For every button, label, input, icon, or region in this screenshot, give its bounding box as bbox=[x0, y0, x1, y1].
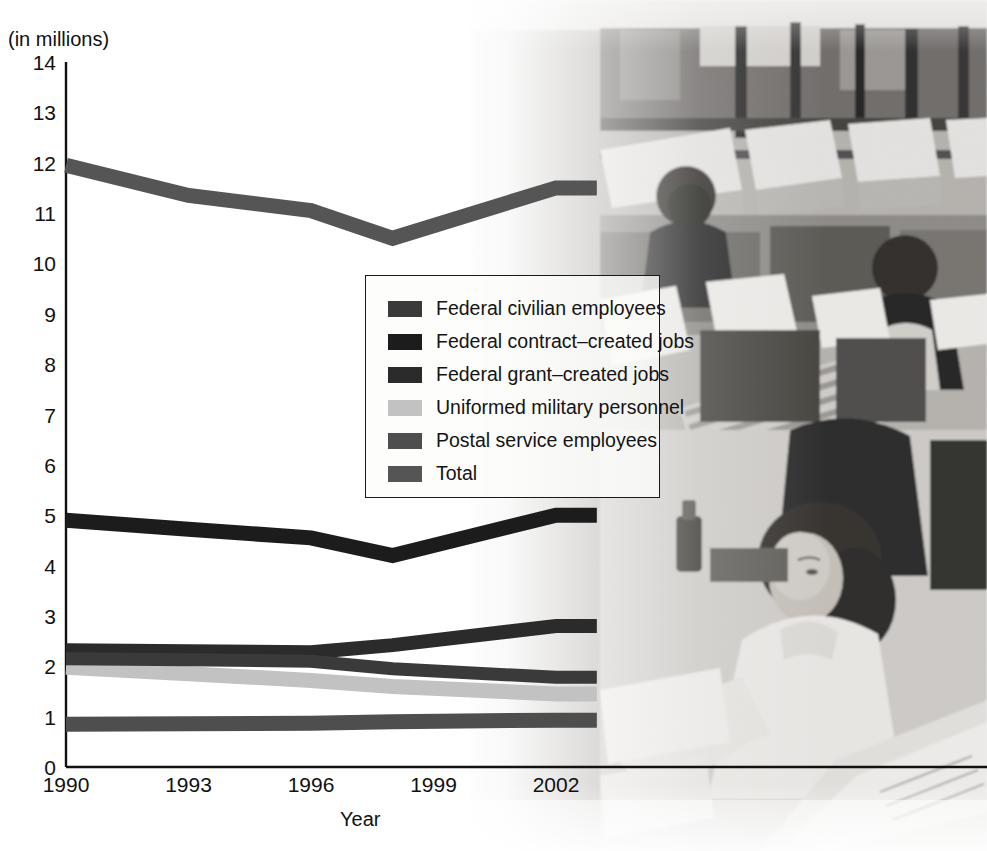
y-axis-tick-label: 5 bbox=[44, 504, 56, 527]
y-axis-tick-label: 12 bbox=[33, 152, 56, 175]
legend-swatch-postal-service-employees bbox=[388, 433, 422, 449]
y-axis-unit-label: (in millions) bbox=[8, 28, 109, 50]
legend-label-federal-grant-created-jobs: Federal grant–created jobs bbox=[436, 365, 669, 385]
legend-swatch-federal-civilian-employees bbox=[388, 301, 422, 317]
legend-swatch-uniformed-military-personnel bbox=[388, 400, 422, 416]
legend-label-federal-contract-created-jobs: Federal contract–created jobs bbox=[436, 332, 694, 352]
legend-item-federal-grant-created-jobs[interactable]: Federal grant–created jobs bbox=[388, 360, 659, 390]
y-axis-tick-label: 13 bbox=[33, 101, 56, 124]
series-line-federal-grant-created-jobs bbox=[66, 626, 597, 652]
legend-swatch-total bbox=[388, 466, 422, 482]
y-axis-tick-label: 14 bbox=[33, 51, 57, 74]
x-axis-title: Year bbox=[340, 808, 381, 830]
legend-item-federal-civilian-employees[interactable]: Federal civilian employees bbox=[388, 294, 659, 324]
legend-item-federal-contract-created-jobs[interactable]: Federal contract–created jobs bbox=[388, 327, 659, 357]
series-line-federal-contract-created-jobs bbox=[66, 515, 597, 555]
legend-label-postal-service-employees: Postal service employees bbox=[436, 431, 657, 451]
y-axis-tick-label: 11 bbox=[34, 202, 56, 225]
legend-item-postal-service-employees[interactable]: Postal service employees bbox=[388, 426, 659, 456]
y-axis-tick-label: 7 bbox=[44, 404, 56, 427]
legend-swatch-federal-contract-created-jobs bbox=[388, 334, 422, 350]
y-axis-ticks: 14131211109876543210 bbox=[33, 51, 57, 779]
legend-label-total: Total bbox=[436, 464, 477, 484]
y-axis-tick-label: 6 bbox=[44, 454, 56, 477]
chart-legend: Federal civilian employees Federal contr… bbox=[365, 275, 660, 498]
x-axis-tick-label: 1999 bbox=[410, 773, 457, 796]
x-axis-ticks: 19901993199619992002 bbox=[43, 773, 580, 796]
x-axis-tick-label: 1996 bbox=[288, 773, 335, 796]
y-axis-tick-label: 1 bbox=[44, 706, 56, 729]
legend-item-total[interactable]: Total bbox=[388, 459, 659, 489]
legend-label-federal-civilian-employees: Federal civilian employees bbox=[436, 299, 666, 319]
series-line-total bbox=[66, 165, 597, 238]
x-axis-tick-label: 2002 bbox=[533, 773, 580, 796]
y-axis-tick-label: 2 bbox=[44, 655, 56, 678]
y-axis-tick-label: 3 bbox=[44, 605, 56, 628]
x-axis-tick-label: 1990 bbox=[43, 773, 90, 796]
legend-label-uniformed-military-personnel: Uniformed military personnel bbox=[436, 398, 684, 418]
y-axis-tick-label: 9 bbox=[44, 303, 56, 326]
y-axis-tick-label: 10 bbox=[33, 252, 56, 275]
x-axis-tick-label: 1993 bbox=[165, 773, 212, 796]
series-line-postal-service-employees bbox=[66, 720, 597, 724]
legend-swatch-federal-grant-created-jobs bbox=[388, 367, 422, 383]
chart-page: (in millions) 14131211109876543210 19901… bbox=[0, 0, 987, 851]
y-axis-tick-label: 4 bbox=[44, 555, 56, 578]
y-axis-tick-label: 8 bbox=[44, 353, 56, 376]
legend-item-uniformed-military-personnel[interactable]: Uniformed military personnel bbox=[388, 393, 659, 423]
